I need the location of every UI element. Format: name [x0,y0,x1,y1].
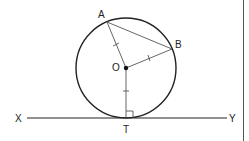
label-b: B [175,39,182,50]
label-o: O [112,62,120,73]
label-y: Y [229,113,236,124]
right-border [243,0,244,141]
label-a: A [98,9,105,20]
geometry-diagram: A B O T X Y [0,0,249,141]
label-t: T [123,124,129,135]
diagram-frame: A B O T X Y [0,0,249,141]
label-x: X [15,113,22,124]
center-point-o [124,66,128,70]
